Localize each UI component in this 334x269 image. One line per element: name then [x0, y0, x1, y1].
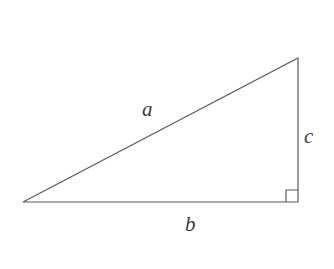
side-label-a: a	[142, 99, 153, 120]
side-label-c: c	[304, 126, 313, 147]
side-label-b: b	[185, 214, 196, 235]
triangle-outline	[23, 58, 298, 202]
right-triangle-figure: a b c	[0, 0, 334, 269]
right-angle-square-icon	[286, 190, 298, 202]
triangle-graphic	[0, 0, 334, 269]
